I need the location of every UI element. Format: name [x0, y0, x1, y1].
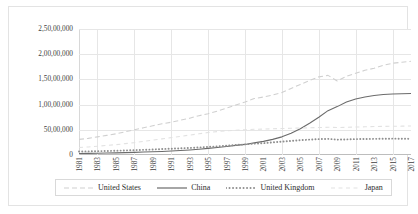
y-axis-tick-label: 1,00,00,000: [38, 101, 73, 109]
x-axis-tick-label: 1997: [223, 157, 232, 172]
x-axis-tick-label: 2011: [352, 157, 361, 171]
solid-line-swatch: [157, 184, 187, 192]
y-axis-tick-label: 50,00,000: [44, 126, 73, 134]
x-axis-tick-label: 1991: [167, 157, 176, 172]
x-axis-tick-label: 2003: [278, 157, 287, 172]
legend-label: China: [191, 183, 210, 192]
x-axis-tick-label: 2009: [333, 157, 342, 172]
y-axis-tick-label: 0: [69, 151, 73, 159]
x-axis-tick-label: 2005: [296, 157, 305, 172]
y-axis-tick-label: 2,50,00,000: [38, 25, 73, 33]
legend-label: United Kingdom: [260, 183, 314, 192]
y-axis: 050,00,0001,00,00,0001,50,00,0002,00,00,…: [9, 7, 77, 177]
series-line-united-states: [79, 61, 411, 139]
x-axis-tick-label: 1995: [204, 157, 213, 172]
x-axis-tick-label: 2007: [315, 157, 324, 172]
y-axis-tick-label: 2,00,00,000: [38, 50, 73, 58]
x-axis-tick-label: 1987: [130, 157, 139, 172]
x-axis-tick-label: 1985: [112, 157, 121, 172]
legend-item-united-kingdom[interactable]: United Kingdom: [226, 183, 314, 192]
chart-legend: United StatesChinaUnited KingdomJapan: [55, 179, 392, 196]
chart-container: 050,00,0001,00,00,0001,50,00,0002,00,00,…: [8, 6, 408, 206]
legend-label: United States: [98, 183, 141, 192]
x-axis-tick-label: 1983: [93, 157, 102, 172]
legend-item-japan[interactable]: Japan: [331, 183, 383, 192]
series-line-united-kingdom: [79, 139, 411, 152]
x-axis-tick-label: 2017: [407, 157, 416, 172]
y-axis-tick-label: 1,50,00,000: [38, 75, 73, 83]
plot-area: [79, 29, 411, 155]
x-axis-tick-label: 1981: [75, 157, 84, 172]
x-axis-tick-label: 1999: [241, 157, 250, 172]
x-axis-tick-label: 1993: [186, 157, 195, 172]
legend-label: Japan: [365, 183, 383, 192]
x-axis-tick-label: 2015: [389, 157, 398, 172]
series-layer: [79, 29, 411, 155]
faint-dashed-line-swatch: [331, 184, 361, 192]
x-axis-tick-label: 1989: [149, 157, 158, 172]
x-axis-tick-label: 2001: [259, 157, 268, 172]
legend-item-china[interactable]: China: [157, 183, 210, 192]
dotted-line-swatch: [226, 184, 256, 192]
x-axis-tick-label: 2013: [370, 157, 379, 172]
legend-item-united-states[interactable]: United States: [64, 183, 141, 192]
dashed-light-line-swatch: [64, 184, 94, 192]
